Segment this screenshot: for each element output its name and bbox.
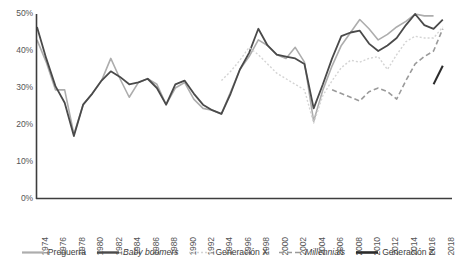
plot-svg xyxy=(0,0,456,205)
series-line-millennials xyxy=(332,29,443,101)
line-chart: 0%10%20%30%40%50% 1974197619781980198219… xyxy=(0,0,456,274)
series-line-generación-z xyxy=(434,66,443,85)
legend-swatch-line-icon xyxy=(356,248,378,257)
y-axis-tick-label: 30% xyxy=(3,83,33,92)
series-line-baby-boomers xyxy=(37,14,443,136)
series-layer xyxy=(37,14,443,136)
series-line-generación-x xyxy=(221,27,442,123)
y-axis-tick-label: 40% xyxy=(3,46,33,55)
legend-item-millennials[interactable]: Millennials xyxy=(279,247,345,257)
y-axis-tick-label: 20% xyxy=(3,120,33,129)
legend-item-label: Baby boomers xyxy=(123,247,178,257)
legend-item-label: Generación X xyxy=(215,247,268,257)
legend-item-label: Generación Z xyxy=(382,247,434,257)
legend-swatch-line-icon xyxy=(279,248,301,257)
chart-legend: PreguerraBaby boomersGeneración XMillenn… xyxy=(0,244,456,260)
legend-item-label: Millennials xyxy=(305,247,345,257)
y-axis-tick-labels: 0%10%20%30%40%50% xyxy=(0,0,33,205)
legend-swatch-line-icon xyxy=(189,248,211,257)
x-axis-tick-labels: 1974197619781980198219841986198819901992… xyxy=(0,201,456,241)
axis-layer xyxy=(36,14,452,199)
legend-swatch-line-icon xyxy=(97,248,119,257)
legend-item-generación-x[interactable]: Generación X xyxy=(189,247,268,257)
plot-area: 0%10%20%30%40%50% xyxy=(0,0,456,205)
legend-item-preguerra[interactable]: Preguerra xyxy=(22,247,86,257)
legend-item-generación-z[interactable]: Generación Z xyxy=(356,247,434,257)
legend-item-label: Preguerra xyxy=(48,247,86,257)
series-line-preguerra xyxy=(37,14,434,134)
legend-swatch-line-icon xyxy=(22,248,44,257)
legend-item-baby-boomers[interactable]: Baby boomers xyxy=(97,247,178,257)
y-axis-tick-label: 50% xyxy=(3,9,33,18)
y-axis-tick-label: 10% xyxy=(3,157,33,166)
